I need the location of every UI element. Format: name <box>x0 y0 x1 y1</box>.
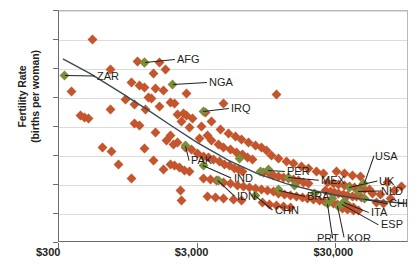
country-label-idn: IDN <box>237 191 256 202</box>
plot-area: ZARAFGNGAIRQPAKINDIDNCHNPERMEXBRAPRTKORI… <box>58 10 408 242</box>
country-label-afg: AFG <box>177 54 200 65</box>
x-tick-label: $300 <box>36 246 60 258</box>
country-label-prt: PRT <box>317 233 339 242</box>
country-label-che: CHE <box>389 198 408 209</box>
x-tick-mark <box>335 243 336 248</box>
country-label-bra: BRA <box>307 191 330 202</box>
country-label-per: PER <box>287 166 310 177</box>
country-label-ind: IND <box>234 173 253 184</box>
x-tick-mark <box>197 243 198 248</box>
x-tick-label: $3,000 <box>175 246 209 258</box>
country-label-uk: UK <box>379 176 394 187</box>
country-label-kor: KOR <box>347 233 371 242</box>
country-label-usa: USA <box>375 151 398 162</box>
country-label-nld: NLD <box>381 186 403 197</box>
country-label-chn: CHN <box>275 205 299 216</box>
country-label-zar: ZAR <box>97 71 119 82</box>
country-label-pak: PAK <box>191 155 212 166</box>
country-label-irq: IRQ <box>231 103 251 114</box>
country-label-mex: MEX <box>321 175 345 186</box>
country-label-ita: ITA <box>371 207 387 218</box>
x-tick-mark <box>58 243 59 248</box>
country-label-esp: ESP <box>381 219 403 230</box>
y-axis-title: Fertility Rate (births per woman) <box>16 17 41 177</box>
fertility-vs-income-scatter-chart: Fertility Rate (births per woman) 012345… <box>0 0 418 269</box>
country-label-nga: NGA <box>209 77 233 88</box>
y-axis-title-line2: (births per woman) <box>28 17 41 177</box>
x-tick-label: $30,000 <box>313 246 353 258</box>
y-axis-title-line1: Fertility Rate <box>16 17 29 177</box>
